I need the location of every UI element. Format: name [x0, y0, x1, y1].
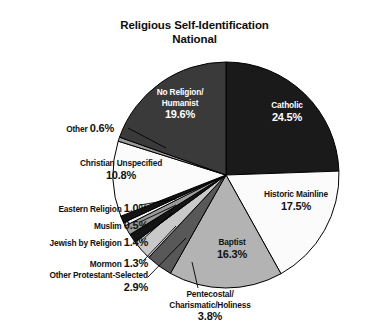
pie-slice-catholic [226, 62, 339, 175]
pie-svg [0, 0, 389, 334]
pie-chart-figure: Religious Self-Identification National C… [0, 0, 389, 334]
pie-slices [113, 62, 339, 288]
